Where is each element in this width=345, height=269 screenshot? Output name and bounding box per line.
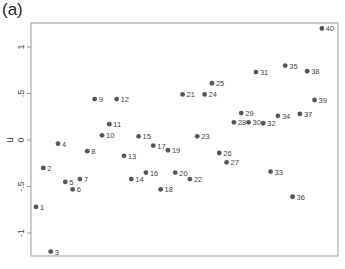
data-point-label: 7 (84, 175, 88, 184)
data-point-marker (210, 81, 215, 86)
data-point-marker (195, 134, 200, 139)
data-point-label: 12 (121, 95, 129, 104)
data-point-label: 32 (267, 119, 275, 128)
data-point-marker (180, 92, 185, 97)
data-point-marker (297, 112, 302, 117)
data-point-label: 9 (99, 95, 103, 104)
data-point-marker (283, 63, 288, 68)
data-point-label: 29 (245, 109, 253, 118)
y-tick-label: -.5 (16, 181, 26, 192)
data-point-label: 19 (172, 146, 180, 155)
data-point-marker (100, 133, 105, 138)
y-tick-label: -1 (16, 229, 26, 237)
data-point-label: 34 (282, 112, 290, 121)
data-points: 1234567891011121314151617181920212223242… (34, 24, 335, 256)
data-point-marker (254, 70, 259, 75)
data-point-marker (70, 187, 75, 192)
data-point-marker (56, 141, 61, 146)
data-point-label: 21 (187, 90, 195, 99)
data-point-label: 39 (319, 96, 327, 105)
data-point-marker (129, 177, 134, 182)
y-axis: 1.50-.5-1 (16, 44, 31, 237)
data-point-marker (136, 134, 141, 139)
data-point-marker (85, 149, 90, 154)
data-point-marker (151, 143, 156, 148)
data-point-marker (305, 69, 310, 74)
data-point-marker (114, 97, 119, 102)
data-point-label: 28 (238, 118, 246, 127)
data-point-marker (290, 194, 295, 199)
data-point-marker (63, 179, 68, 184)
data-point-marker (275, 113, 280, 118)
data-point-marker (173, 170, 178, 175)
data-point-marker (78, 177, 83, 182)
data-point-label: 23 (201, 132, 209, 141)
data-point-label: 18 (165, 185, 173, 194)
data-point-marker (92, 97, 97, 102)
data-point-label: 24 (209, 90, 217, 99)
data-point-label: 37 (304, 110, 312, 119)
data-point-marker (48, 249, 53, 254)
data-point-marker (224, 160, 229, 165)
scatter-plot: 1.50-.5-1 u 1234567891011121314151617181… (0, 0, 345, 269)
data-point-label: 13 (128, 152, 136, 161)
data-point-marker (188, 177, 193, 182)
data-point-label: 40 (326, 24, 334, 33)
data-point-label: 14 (135, 175, 143, 184)
data-point-marker (261, 121, 266, 126)
data-point-marker (312, 98, 317, 103)
data-point-marker (319, 26, 324, 31)
data-point-label: 36 (297, 193, 305, 202)
data-point-label: 17 (157, 142, 165, 151)
data-point-label: 30 (253, 118, 261, 127)
data-point-marker (144, 170, 149, 175)
y-tick-label: 0 (16, 137, 26, 142)
data-point-marker (166, 148, 171, 153)
data-point-marker (239, 111, 244, 116)
data-point-marker (217, 151, 222, 156)
data-point-label: 11 (113, 120, 121, 129)
data-point-label: 15 (143, 132, 151, 141)
data-point-label: 6 (77, 185, 81, 194)
data-point-label: 26 (223, 149, 231, 158)
data-point-label: 38 (311, 67, 319, 76)
data-point-label: 5 (69, 178, 73, 187)
data-point-marker (122, 153, 127, 158)
y-axis-label: u (4, 137, 15, 143)
data-point-label: 2 (47, 164, 51, 173)
y-tick-label: .5 (16, 90, 26, 98)
data-point-marker (41, 166, 46, 171)
data-point-marker (158, 187, 163, 192)
data-point-label: 35 (289, 62, 297, 71)
data-point-marker (268, 169, 273, 174)
data-point-label: 20 (179, 169, 187, 178)
data-point-label: 10 (106, 131, 114, 140)
data-point-marker (34, 205, 39, 210)
data-point-label: 22 (194, 175, 202, 184)
y-tick-label: 1 (16, 44, 26, 49)
data-point-marker (246, 120, 251, 125)
data-point-label: 16 (150, 169, 158, 178)
data-point-label: 1 (40, 203, 44, 212)
data-point-marker (232, 120, 237, 125)
data-point-label: 3 (55, 248, 59, 257)
data-point-marker (107, 122, 112, 127)
data-point-label: 25 (216, 79, 224, 88)
data-point-label: 31 (260, 68, 268, 77)
data-point-marker (202, 92, 207, 97)
data-point-label: 27 (231, 158, 239, 167)
data-point-label: 8 (91, 147, 95, 156)
data-point-label: 33 (275, 168, 283, 177)
plot-frame (31, 23, 338, 256)
data-point-label: 4 (62, 140, 66, 149)
